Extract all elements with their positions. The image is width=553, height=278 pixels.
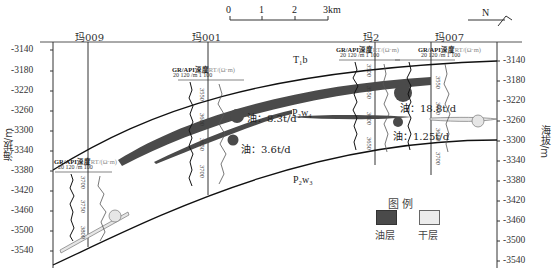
- y-tick-left-3140: -3140: [11, 44, 33, 54]
- scale-bar: [230, 16, 328, 20]
- depth-ma007-3700: 3700: [435, 152, 442, 165]
- depth-ma009-3800: 3800: [80, 226, 87, 239]
- log-scale-ma009: 20 120 /m 100: [58, 164, 93, 170]
- well-name-ma009: 玛009: [75, 29, 104, 44]
- y-axis-title-left: 海拔/m: [1, 128, 16, 161]
- y-tick-right-3460: -3460: [503, 215, 525, 225]
- scale-tick-2: 2: [292, 4, 297, 15]
- y-tick-left-3540: -3540: [11, 245, 33, 255]
- y-axis-title-right: 海拔/m: [537, 125, 552, 158]
- y-tick-left-3220: -3220: [11, 85, 33, 95]
- gr-max: 120: [429, 52, 438, 58]
- depth-ma001-3550: 3550: [199, 88, 206, 101]
- oil-label-18-8: 油：18.8t/d: [400, 100, 456, 115]
- depth-ma007-3550: 3550: [435, 76, 442, 89]
- depth-ma009-3700: 3700: [80, 176, 87, 189]
- oil-label-1-25: 油：1.25t/d: [393, 128, 449, 143]
- rt-label: RT/(Ω·m): [209, 66, 235, 73]
- y-tick-left-3460: -3460: [11, 205, 33, 215]
- y-tick-left-3420: -3420: [11, 185, 33, 195]
- y-tick-left-3180: -3180: [11, 65, 33, 75]
- depth-unit: /m: [439, 52, 445, 58]
- well-name-ma2: 玛2: [363, 29, 379, 44]
- log-scale-ma2: 20 120 /m 1 100: [340, 52, 379, 58]
- gr-min: 20: [340, 52, 346, 58]
- rt-max: 100: [84, 164, 93, 170]
- rt-label: RT/(Ω·m): [91, 158, 117, 165]
- y-tick-right-3500: -3500: [503, 235, 525, 245]
- depth-ma001-3700: 3700: [199, 165, 206, 178]
- y-tick-left-3380: -3380: [11, 165, 33, 175]
- y-tick-right-3380: -3380: [503, 175, 525, 185]
- rt-min: 1: [447, 52, 450, 58]
- gr-max: 120: [181, 72, 190, 78]
- north-label: N: [482, 7, 489, 18]
- y-tick-right-3540: -3540: [503, 255, 525, 265]
- log-scale-ma007: 20 120 /m 1 100: [421, 52, 460, 58]
- gr-max: 120: [66, 164, 75, 170]
- well-name-ma007: 玛007: [435, 29, 464, 44]
- gr-min: 20: [58, 164, 64, 170]
- legend-title: 图 例: [388, 195, 414, 211]
- scale-tick-1: 1: [259, 4, 264, 15]
- formation-t1b: T₁b: [293, 54, 308, 65]
- oil-label-3-6: 油：3.6t/d: [241, 141, 291, 156]
- depth-unit: /m: [358, 52, 364, 58]
- legend-label-dry: 干层: [418, 227, 438, 242]
- y-tick-left-3500: -3500: [11, 225, 33, 235]
- y-tick-right-3180: -3180: [503, 75, 525, 85]
- well-name-ma001: 玛001: [192, 29, 221, 44]
- depth-ma2-3600: 3600: [366, 112, 373, 125]
- legend-label-oil: 油层: [375, 227, 395, 242]
- rt-min: 1: [199, 72, 202, 78]
- y-tick-right-3300: -3300: [503, 135, 525, 145]
- depth-ma2-3500: 3500: [366, 64, 373, 77]
- oil-label-8-3: 油：8.3t/d: [247, 110, 297, 125]
- legend-swatch-oil: [376, 210, 397, 225]
- scale-tick-3km: 3km: [323, 4, 341, 15]
- rt-min: 1: [366, 52, 369, 58]
- log-scale-ma001: 20 120 /m 1 100: [173, 72, 212, 78]
- rt-max: 100: [203, 72, 212, 78]
- y-tick-right-3140: -3140: [503, 55, 525, 65]
- depth-unit: /m: [76, 164, 82, 170]
- formation-p2w3: P₂w₃: [293, 174, 313, 185]
- rt-max: 100: [370, 52, 379, 58]
- depth-ma009-3750: 3750: [80, 200, 87, 213]
- gr-min: 20: [173, 72, 179, 78]
- depth-ma2-3550: 3550: [366, 86, 373, 99]
- legend-swatch-dry: [419, 210, 440, 225]
- depth-unit: /m: [191, 72, 197, 78]
- y-tick-right-3260: -3260: [503, 115, 525, 125]
- depth-ma001-3600: 3600: [199, 113, 206, 126]
- rt-max: 100: [451, 52, 460, 58]
- depth-ma2-3650: 3650: [366, 137, 373, 150]
- scale-tick-0: 0: [226, 4, 231, 15]
- gr-max: 120: [348, 52, 357, 58]
- y-tick-right-3220: -3220: [503, 95, 525, 105]
- gr-min: 20: [421, 52, 427, 58]
- depth-ma001-3650: 3650: [199, 138, 206, 151]
- y-tick-right-3340: -3340: [503, 155, 525, 165]
- y-tick-right-3420: -3420: [503, 195, 525, 205]
- north-arrow-icon: [468, 16, 512, 26]
- y-tick-left-3260: -3260: [11, 105, 33, 115]
